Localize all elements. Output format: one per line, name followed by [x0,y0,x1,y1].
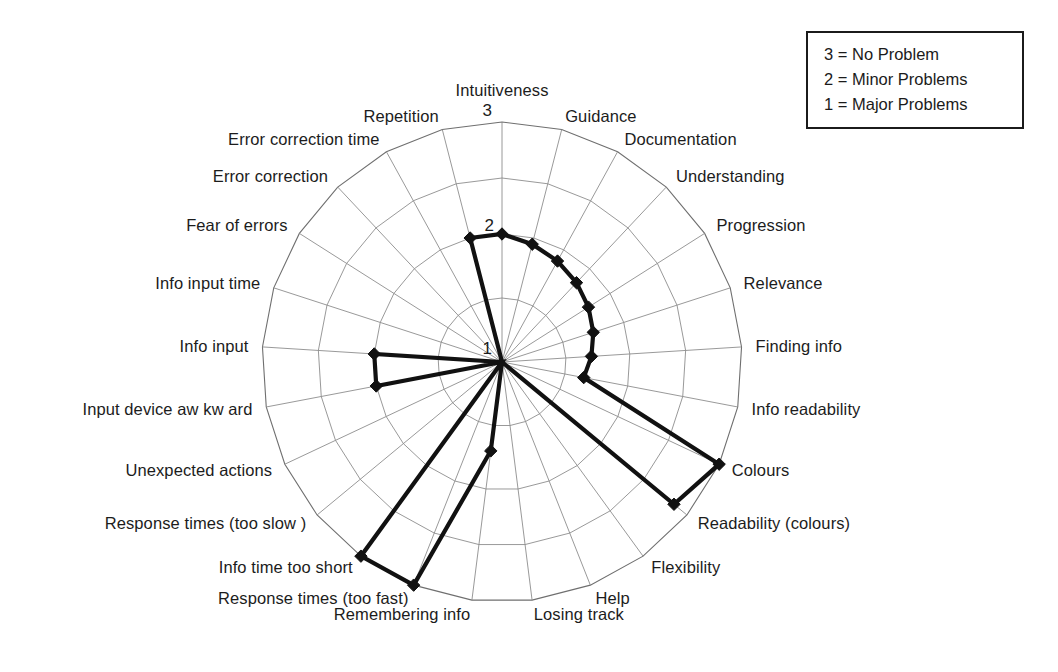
grid-spoke [502,362,719,464]
data-point-marker [368,348,380,360]
axis-label-repetition: Repetition [363,107,438,125]
axis-label-flexibility: Flexibility [651,558,721,576]
data-point-marker [370,380,382,392]
axis-label-relevance: Relevance [744,274,823,292]
tick-label-3: 3 [483,101,492,120]
grid-spoke [502,347,742,362]
scale-legend: 3 = No Problem 2 = Minor Problems 1 = Ma… [806,31,1024,129]
legend-row-major-problems: 1 = Major Problems [824,92,1008,117]
axis-label-error-correction-time: Error correction time [228,130,380,148]
series-outline [361,234,719,585]
grid-spoke [414,362,502,585]
axis-labels: IntuitivenessGuidanceDocumentationUnders… [82,81,861,623]
series-polyline [361,234,719,585]
grid-spoke [502,362,590,585]
axis-label-info-input-time: Info input time [155,274,260,292]
legend-row-minor-problems: 2 = Minor Problems [824,67,1008,92]
axis-label-unexpected-actions: Unexpected actions [125,461,272,479]
axis-label-info-readability: Info readability [752,400,862,418]
axis-label-error-correction: Error correction [213,167,328,185]
axis-label-remembering-info: Remembering info [334,605,470,623]
tick-label-1: 1 [483,339,492,358]
series-markers [355,228,726,592]
legend-row-no-problem: 3 = No Problem [824,42,1008,67]
axis-label-understanding: Understanding [676,167,785,185]
grid-spoke [285,362,502,464]
axis-label-losing-track: Losing track [534,605,625,623]
axis-label-documentation: Documentation [624,130,736,148]
axis-label-guidance: Guidance [565,107,636,125]
data-point-marker [587,326,599,338]
data-point-marker [585,350,597,362]
axis-label-finding-info: Finding info [756,337,843,355]
axis-label-colours: Colours [732,461,790,479]
axis-label-info-time-too-short: Info time too short [219,558,353,576]
axis-label-response-times-too-slow: Response times (too slow ) [105,514,307,532]
axis-label-input-device-aw-kw-ard: Input device aw kw ard [82,400,252,418]
data-point-marker [464,232,476,244]
grid-spoke [299,233,502,362]
axis-label-info-input: Info input [180,337,249,355]
axis-label-readability-colours: Readability (colours) [698,514,851,532]
axis-label-progression: Progression [717,216,806,234]
grid-spoke [502,233,705,362]
radar-chart: IntuitivenessGuidanceDocumentationUnders… [0,0,1058,672]
data-point-marker [496,228,508,240]
axis-label-fear-of-errors: Fear of errors [186,216,287,234]
axis-label-response-times-too-fast: Response times (too fast) [218,589,409,607]
axis-label-intuitiveness: Intuitiveness [455,81,548,99]
tick-label-2: 2 [485,216,494,235]
